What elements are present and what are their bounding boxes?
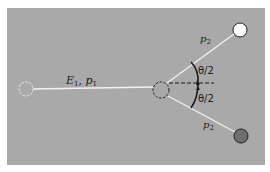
scattering-diagram: E1, p1 p2 p2 θ/2 θ/2 — [0, 0, 270, 172]
arrow-head-icon — [196, 86, 200, 90]
angle-top-label: θ/2 — [198, 65, 214, 76]
outgoing-top-momentum-label: p2 — [200, 33, 211, 46]
outgoing-particle-bottom-circle — [234, 129, 248, 143]
angle-bottom-label: θ/2 — [198, 93, 214, 104]
outgoing-bottom-momentum-label: p2 — [203, 119, 214, 132]
collision-point-dashed-circle — [153, 82, 169, 98]
initial-position-dashed-circle — [19, 82, 33, 96]
outgoing-particle-top-circle — [233, 23, 247, 37]
incident-label: E1, p1 — [65, 74, 97, 88]
angle-arc-bottom — [191, 83, 198, 108]
